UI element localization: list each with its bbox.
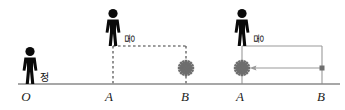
person-moving-solid-label: 움 <box>253 34 264 43</box>
axis-label-A2: A <box>235 89 244 104</box>
burst-dashed-icon <box>178 60 194 76</box>
person-moving-dashed-label: 움 <box>124 34 135 43</box>
axis-label-O: O <box>21 89 31 104</box>
person-moving-dashed-icon <box>106 9 121 46</box>
person-rest-icon <box>23 47 38 84</box>
person-rest-label: 정 <box>40 72 49 83</box>
solid-trajectory-path <box>242 46 322 84</box>
axis-label-A1: A <box>104 89 113 104</box>
leftward-arrow <box>250 65 323 70</box>
dashed-trajectory-path <box>113 46 186 84</box>
physics-diagram-svg: 정 움 움 O A B A B <box>0 0 345 110</box>
burst-solid-icon <box>234 60 250 76</box>
endpoint-dot <box>320 66 325 71</box>
axis-label-B1: B <box>181 89 189 104</box>
axis-label-B2: B <box>317 89 325 104</box>
diagram-canvas: 정 움 움 O A B A B <box>0 0 345 110</box>
person-moving-solid-icon <box>235 9 250 46</box>
